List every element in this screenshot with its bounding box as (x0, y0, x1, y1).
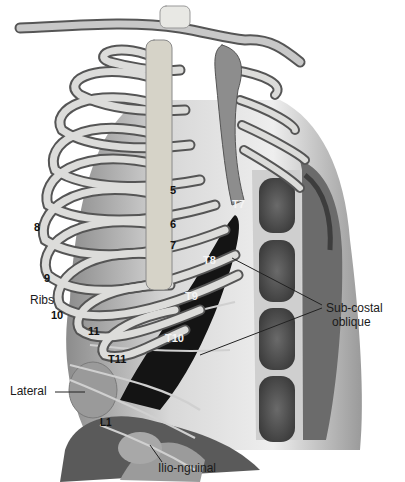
label-t9: T9 (185, 291, 198, 302)
label-ribs: Ribs (30, 294, 54, 306)
label-rib-9: 9 (44, 273, 50, 284)
label-rib-8: 8 (34, 222, 40, 233)
label-rib-6: 6 (170, 219, 176, 230)
label-t10: T10 (165, 333, 184, 344)
label-t11: T11 (108, 354, 126, 365)
thorax-illustration (0, 0, 405, 482)
label-subcostal-oblique-line2: oblique (332, 316, 371, 328)
label-lateral: Lateral (10, 385, 47, 397)
label-l1: L1 (100, 418, 112, 428)
label-rib-5: 5 (170, 185, 176, 196)
label-rib-7: 7 (170, 240, 176, 251)
label-t7: T7 (232, 199, 245, 210)
label-rib-11: 11 (88, 326, 100, 337)
label-ilioinguinal: Ilio-nguinal (158, 462, 216, 474)
anatomy-figure: 5 6 7 8 9 Ribs 10 11 T7 T8 T9 T10 T11 L1… (0, 0, 405, 482)
label-subcostal-oblique-line1: Sub-costal (326, 302, 383, 314)
label-t8: T8 (203, 255, 216, 266)
label-rib-10: 10 (51, 310, 63, 321)
